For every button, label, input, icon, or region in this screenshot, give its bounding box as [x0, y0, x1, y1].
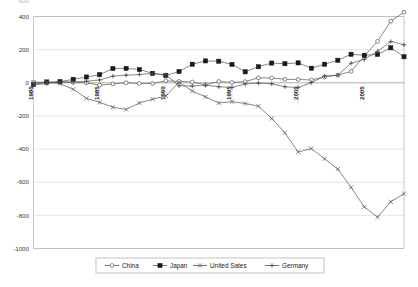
ytick-label--800: -800: [17, 212, 30, 219]
data-point: [296, 78, 300, 82]
data-point: [137, 82, 141, 86]
series-line-1: [34, 48, 405, 85]
data-point: [283, 85, 287, 89]
data-point: [296, 61, 300, 65]
legend-label-1: Japan: [170, 262, 188, 270]
data-point: [256, 65, 260, 69]
data-point: [190, 80, 194, 84]
data-point: [283, 77, 287, 81]
data-point: [389, 19, 393, 23]
data-point: [177, 69, 181, 73]
data-point: [309, 146, 313, 150]
data-point: [111, 82, 115, 86]
data-point: [71, 87, 75, 91]
data-point: [323, 157, 327, 161]
data-point: [98, 73, 102, 77]
line-chart: 6004002000-200-400-600-800-1000198019851…: [0, 0, 418, 287]
data-point: [256, 81, 260, 85]
legend-label-0: China: [122, 262, 139, 269]
data-point: [84, 96, 88, 100]
data-point: [283, 62, 287, 66]
data-point: [270, 61, 274, 65]
data-point: [349, 69, 353, 73]
chart-legend: ChinaJapanUnited SatesGermany: [96, 258, 324, 273]
data-point: [203, 95, 207, 99]
data-point: [323, 62, 327, 66]
data-point: [362, 53, 366, 57]
data-point: [336, 58, 340, 62]
data-point: [217, 80, 221, 84]
data-point: [111, 66, 115, 70]
data-point: [296, 150, 300, 154]
ytick-label--200: -200: [17, 112, 30, 119]
legend-marker: [110, 264, 114, 268]
xtick-label-1990: 1990: [159, 86, 166, 100]
data-point: [283, 131, 287, 135]
data-point: [111, 74, 115, 78]
data-point: [402, 55, 406, 59]
data-point: [190, 62, 194, 66]
data-point: [217, 59, 221, 63]
data-point: [98, 83, 102, 87]
chart-container: 6004002000-200-400-600-800-1000198019851…: [0, 0, 418, 287]
data-point: [376, 39, 380, 43]
legend-label-2: United Sates: [210, 262, 247, 269]
ytick-label-0: 0: [26, 79, 30, 86]
data-point: [137, 101, 141, 105]
data-point: [349, 185, 353, 189]
legend-marker: [158, 263, 162, 267]
data-point: [151, 82, 155, 86]
xtick-label-1980: 1980: [27, 86, 34, 100]
series-united-sates: [31, 80, 406, 219]
ytick-label--600: -600: [17, 178, 30, 185]
data-point: [309, 66, 313, 70]
data-point: [269, 82, 273, 86]
xtick-label-1995: 1995: [225, 86, 232, 100]
xtick-label-1985: 1985: [93, 86, 100, 100]
data-point: [336, 167, 340, 171]
ytick-label--1000: -1000: [13, 245, 29, 252]
data-point: [150, 97, 154, 101]
xtick-label-2005: 2005: [358, 86, 365, 100]
data-point: [389, 200, 393, 204]
data-point: [349, 52, 353, 56]
ytick-label-200: 200: [19, 46, 30, 53]
data-point: [190, 89, 194, 93]
data-point: [84, 75, 88, 79]
data-point: [190, 84, 194, 88]
data-point: [124, 81, 128, 85]
data-point: [257, 76, 261, 80]
data-point: [362, 205, 366, 209]
data-point: [217, 85, 221, 89]
legend-label-3: Germany: [282, 262, 309, 270]
data-point: [137, 67, 141, 71]
data-point: [389, 46, 393, 50]
data-point: [137, 72, 141, 76]
data-point: [230, 62, 234, 66]
data-point: [402, 10, 406, 14]
data-point: [270, 116, 274, 120]
ytick-label-400: 400: [19, 13, 30, 20]
data-point: [270, 76, 274, 80]
data-point: [375, 215, 379, 219]
data-point: [402, 43, 406, 47]
ytick-label--400: -400: [17, 145, 30, 152]
data-point: [164, 79, 168, 83]
clipped-axis-label: 600: [19, 0, 30, 4]
series-line-0: [34, 12, 405, 85]
data-point: [124, 73, 128, 77]
data-point: [230, 81, 234, 85]
series-line-2: [34, 82, 405, 217]
data-point: [203, 59, 207, 63]
data-point: [243, 70, 247, 74]
data-point: [97, 78, 101, 82]
data-point: [124, 66, 128, 70]
